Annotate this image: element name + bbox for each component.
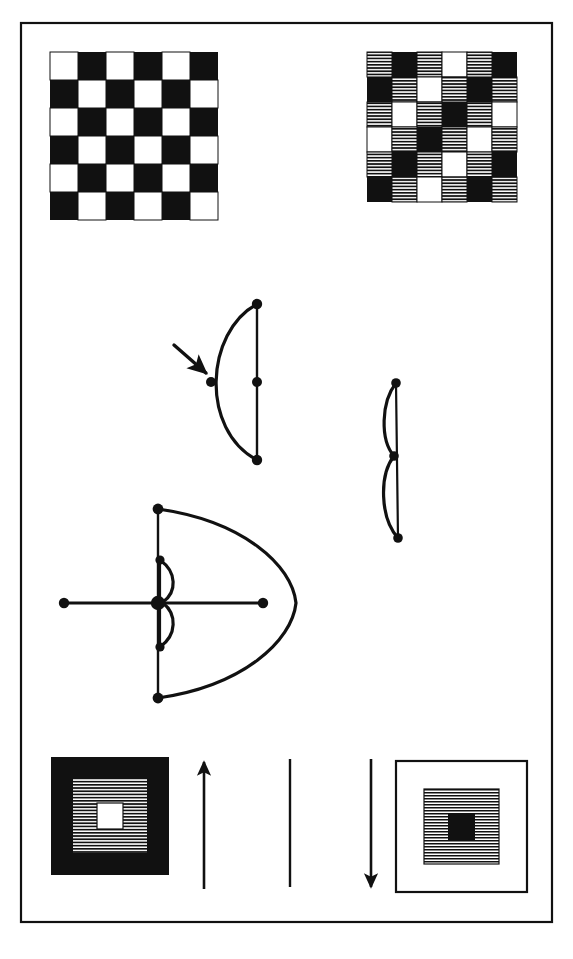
checker-cell-w xyxy=(50,108,78,136)
checker-cell-k xyxy=(78,164,106,192)
checker-cell-k xyxy=(467,177,492,202)
figure-page xyxy=(0,0,573,959)
checker-cell-h xyxy=(367,52,392,77)
checker-cell-k xyxy=(134,164,162,192)
checker-cell-w xyxy=(162,164,190,192)
checker-cell-w xyxy=(190,136,218,164)
checker-cell-k xyxy=(492,52,517,77)
checker-cell-h xyxy=(442,127,467,152)
checker-cell-w xyxy=(134,80,162,108)
checker-cell-w xyxy=(417,77,442,102)
bow-narrow-node-bottom xyxy=(393,533,403,543)
checker-cell-h xyxy=(417,52,442,77)
checker-cell-k xyxy=(78,52,106,80)
checker-cell-h xyxy=(442,177,467,202)
checker-cell-w xyxy=(417,177,442,202)
checker-cell-k xyxy=(367,77,392,102)
checker-cell-w xyxy=(162,52,190,80)
checker-cell-k xyxy=(442,102,467,127)
checker-cell-w xyxy=(106,164,134,192)
checker-cell-k xyxy=(162,136,190,164)
bow-large-node-top xyxy=(153,504,164,515)
checker-cell-w xyxy=(162,108,190,136)
checker-cell-w xyxy=(392,102,417,127)
checker-cell-k xyxy=(78,108,106,136)
checker-cell-h xyxy=(367,152,392,177)
checker-cell-w xyxy=(467,127,492,152)
nested-square-dark-inner xyxy=(97,803,123,829)
bow-narrow-node-middle xyxy=(389,451,399,461)
bow-small-node-bottom xyxy=(252,455,262,465)
checkerboard-plain xyxy=(50,52,218,220)
bow-large-node-axis-right xyxy=(258,598,268,608)
bow-small-node-top xyxy=(252,299,262,309)
checker-cell-k xyxy=(190,164,218,192)
checker-cell-w xyxy=(78,136,106,164)
checker-cell-h xyxy=(442,77,467,102)
checker-cell-k xyxy=(106,80,134,108)
checker-cell-k xyxy=(492,152,517,177)
checker-cell-k xyxy=(467,77,492,102)
checker-cell-k xyxy=(106,192,134,220)
checker-cell-w xyxy=(442,52,467,77)
checker-cell-k xyxy=(162,192,190,220)
checker-cell-k xyxy=(134,108,162,136)
checkerboard-hatched xyxy=(367,52,517,202)
checker-cell-k xyxy=(190,108,218,136)
bow-large-node-inner-top xyxy=(155,555,164,564)
bow-large-node-bottom xyxy=(153,693,164,704)
checker-cell-h xyxy=(467,52,492,77)
checker-cell-k xyxy=(106,136,134,164)
checker-cell-w xyxy=(492,102,517,127)
bow-small-node-chord-mid xyxy=(252,377,262,387)
checker-cell-w xyxy=(442,152,467,177)
checker-cell-h xyxy=(392,77,417,102)
checker-cell-h xyxy=(392,177,417,202)
bow-large-node-center xyxy=(151,596,165,610)
checker-cell-h xyxy=(392,127,417,152)
checker-cell-w xyxy=(50,52,78,80)
checker-cell-h xyxy=(492,127,517,152)
nested-square-light xyxy=(396,761,527,892)
figure-canvas xyxy=(0,0,573,959)
checker-cell-w xyxy=(78,80,106,108)
nested-square-light-inner xyxy=(448,813,475,840)
checker-cell-h xyxy=(492,77,517,102)
checker-cell-w xyxy=(190,80,218,108)
bow-large-node-inner-bottom xyxy=(155,642,164,651)
checker-cell-w xyxy=(367,127,392,152)
checker-cell-w xyxy=(134,192,162,220)
checker-cell-h xyxy=(417,102,442,127)
checker-cell-w xyxy=(78,192,106,220)
checker-cell-w xyxy=(106,52,134,80)
checker-cell-h xyxy=(467,152,492,177)
checker-cell-w xyxy=(50,164,78,192)
checker-cell-k xyxy=(367,177,392,202)
checker-cell-h xyxy=(467,102,492,127)
nested-square-dark xyxy=(51,757,169,875)
checker-cell-k xyxy=(162,80,190,108)
checker-cell-w xyxy=(134,136,162,164)
checker-cell-k xyxy=(50,192,78,220)
checker-cell-h xyxy=(367,102,392,127)
checker-cell-k xyxy=(392,52,417,77)
bow-small-node-arc-mid xyxy=(206,377,216,387)
checker-cell-h xyxy=(492,177,517,202)
checker-cell-k xyxy=(50,136,78,164)
checker-cell-k xyxy=(50,80,78,108)
checker-cell-k xyxy=(190,52,218,80)
checker-cell-k xyxy=(417,127,442,152)
checker-cell-w xyxy=(190,192,218,220)
bow-large-node-axis-left xyxy=(59,598,69,608)
checker-cell-k xyxy=(392,152,417,177)
checker-cell-h xyxy=(417,152,442,177)
checker-cell-k xyxy=(134,52,162,80)
checker-cell-w xyxy=(106,108,134,136)
bow-narrow-node-top xyxy=(391,378,401,388)
